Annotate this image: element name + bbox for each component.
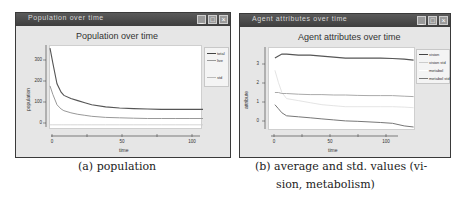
y-tick: 3 xyxy=(245,61,259,66)
maximize-button[interactable]: □ xyxy=(428,16,437,25)
population-lines xyxy=(50,46,203,130)
plot-area xyxy=(268,47,415,130)
x-tick: 50 xyxy=(323,139,337,144)
legend: vision vision std metabol metabol std xyxy=(416,49,450,84)
legend-item: vision std xyxy=(419,60,446,65)
x-tick: 0 xyxy=(45,139,59,144)
chart-title: Agent attributes over time xyxy=(298,32,401,42)
plot-area xyxy=(49,45,202,129)
y-tick: 2 xyxy=(245,80,259,85)
x-tick: 0 xyxy=(267,139,281,144)
population-window: Population over time _ □ × Population ov… xyxy=(15,12,231,158)
y-axis-label: population xyxy=(25,88,31,111)
y-tick: 0 xyxy=(245,118,259,123)
legend-item: total xyxy=(207,51,225,56)
minimize-button[interactable]: _ xyxy=(417,16,426,25)
minimize-button[interactable]: _ xyxy=(197,15,206,24)
y-tick: 0 xyxy=(28,120,42,125)
x-axis-label: time xyxy=(119,147,128,153)
x-tick: 100 xyxy=(379,139,393,144)
agent-attributes-window: Agent attributes over time _ □ × Agent a… xyxy=(239,13,451,158)
maximize-button[interactable]: □ xyxy=(208,15,217,24)
legend-item: metabol xyxy=(419,68,443,73)
y-tick: 300 xyxy=(28,57,42,62)
agent-attributes-window-titlebar[interactable]: Agent attributes over time _ □ × xyxy=(240,14,450,27)
legend-item: live xyxy=(207,58,223,63)
caption-b-line2: sion, metabolism) xyxy=(276,178,375,191)
x-axis xyxy=(270,134,430,142)
legend-item: metabol std xyxy=(419,76,450,81)
caption-a: (a) population xyxy=(78,160,156,173)
y-tick: 200 xyxy=(28,78,42,83)
x-axis-label: time xyxy=(328,147,337,153)
close-button[interactable]: × xyxy=(219,15,228,24)
window-title: Agent attributes over time xyxy=(252,15,347,22)
population-window-titlebar[interactable]: Population over time _ □ × xyxy=(16,13,230,26)
x-tick: 100 xyxy=(185,139,199,144)
caption-b-line1: (b) average and std. values (vi- xyxy=(255,160,427,173)
legend-item: vision xyxy=(419,52,439,57)
y-axis-label: attribute xyxy=(243,91,249,109)
legend-item: std xyxy=(207,75,222,80)
chart-title: Population over time xyxy=(76,31,158,41)
window-title: Population over time xyxy=(28,14,104,21)
legend: total live std xyxy=(204,47,229,87)
close-button[interactable]: × xyxy=(439,16,448,25)
attribute-lines xyxy=(269,48,416,131)
x-tick: 50 xyxy=(115,139,129,144)
